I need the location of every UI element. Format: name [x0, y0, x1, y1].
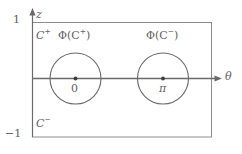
z-axis-label: z: [36, 9, 42, 20]
map-label-phi-c-minus: Φ(C−): [146, 30, 178, 41]
region-label-c-minus: C−: [36, 118, 51, 129]
z-tick-label-top: 1: [13, 14, 20, 25]
z-axis-arrowhead: [29, 8, 35, 16]
region-label-c-plus-sign: +: [44, 27, 50, 36]
z-tick-label-bottom: −1: [5, 128, 21, 139]
figure-vector-layer: [0, 0, 242, 154]
map-label-phi-c-plus-base: Φ(C: [58, 29, 80, 42]
theta-axis-label: θ: [225, 71, 232, 82]
center-label-zero: 0: [71, 83, 78, 94]
map-label-phi-c-plus-close: ): [86, 29, 90, 42]
center-dot-pi: [161, 77, 165, 81]
region-label-c-minus-sign: −: [44, 115, 50, 124]
map-label-phi-c-minus-close: ): [174, 29, 178, 42]
region-label-c-plus: C+: [36, 30, 51, 41]
figure-canvas: z θ 1 −1 C+ C− Φ(C+) Φ(C−) 0 π: [0, 0, 242, 154]
map-label-phi-c-plus: Φ(C+): [58, 30, 90, 41]
theta-axis-arrowhead: [215, 75, 223, 81]
center-dot-zero: [74, 77, 78, 81]
map-label-phi-c-minus-base: Φ(C: [146, 29, 168, 42]
center-label-pi: π: [159, 83, 166, 94]
